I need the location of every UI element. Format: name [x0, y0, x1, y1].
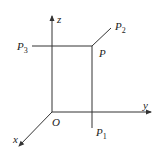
p2-label: P2	[114, 20, 126, 35]
origin-label: O	[52, 116, 60, 128]
z-axis-label: z	[56, 13, 62, 25]
y-axis-label: y	[142, 99, 148, 111]
p2-projection-line	[92, 28, 111, 46]
p1-label: P1	[95, 126, 107, 141]
x-axis-label: x	[12, 133, 18, 145]
x-axis	[19, 112, 52, 146]
p-label: P	[98, 47, 106, 59]
p3-label: P3	[16, 40, 28, 55]
coordinate-diagram: z y x O P3 P1 P2 P	[0, 0, 159, 161]
